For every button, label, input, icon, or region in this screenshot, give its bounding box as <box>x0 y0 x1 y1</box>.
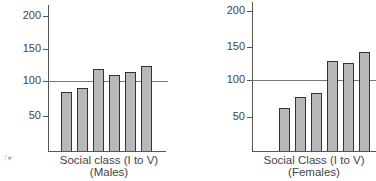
y-tick-150 <box>247 47 252 48</box>
y-tick-label: 200 <box>215 4 245 16</box>
y-tick-label: 150 <box>215 40 245 52</box>
y-tick-label: 200 <box>11 9 41 21</box>
chart-males: 200 150 100 50 Social class (I to V) (Ma… <box>0 0 190 181</box>
y-tick-200 <box>43 16 48 17</box>
y-tick-200 <box>247 11 252 12</box>
x-axis-label: Social class (I to V) (Males) <box>50 154 168 178</box>
bar-class-IV <box>343 63 354 151</box>
bar-class-V <box>359 52 370 151</box>
y-tick-label: 50 <box>215 110 245 122</box>
x-axis <box>252 151 376 152</box>
bar-class-IIIM <box>109 75 120 151</box>
reference-line-100 <box>252 80 376 81</box>
bar-class-V <box>141 66 152 151</box>
x-axis-label: Social Class (I to V) (Females) <box>252 154 376 178</box>
y-tick-100 <box>247 80 252 81</box>
y-tick-100 <box>43 81 48 82</box>
bar-class-IIIN <box>93 69 104 151</box>
bar-class-I <box>279 108 290 151</box>
y-tick-50 <box>43 116 48 117</box>
x-axis-subtitle: (Males) <box>50 166 168 178</box>
bar-class-II <box>77 88 88 151</box>
bar-class-IV <box>125 72 136 151</box>
chart-females: 200 150 100 50 Social Class (I to V) (Fe… <box>200 0 376 181</box>
x-axis <box>48 151 166 152</box>
y-tick-label: 150 <box>11 42 41 54</box>
y-tick-label: 100 <box>11 74 41 86</box>
x-axis-title: Social class (I to V) <box>50 154 168 166</box>
y-tick-label: 100 <box>215 73 245 85</box>
y-tick-150 <box>43 49 48 50</box>
bar-class-IIIM <box>327 61 338 151</box>
x-axis-subtitle: (Females) <box>252 166 376 178</box>
y-tick-50 <box>247 117 252 118</box>
x-axis-title: Social Class (I to V) <box>252 154 376 166</box>
y-axis <box>48 5 49 152</box>
y-axis <box>252 2 253 152</box>
bar-class-II <box>295 97 306 151</box>
bar-class-IIIN <box>311 93 322 151</box>
y-tick-label: 50 <box>11 109 41 121</box>
bar-class-I <box>61 92 72 151</box>
